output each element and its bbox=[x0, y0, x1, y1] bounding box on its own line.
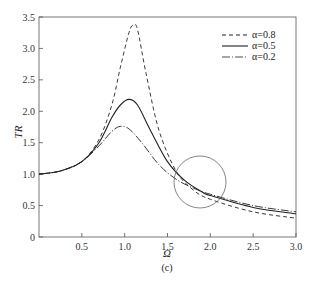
curve-dash-dot bbox=[39, 126, 296, 212]
svg-text:2.5: 2.5 bbox=[23, 74, 36, 85]
svg-text:3.0: 3.0 bbox=[290, 241, 303, 252]
svg-text:2.5: 2.5 bbox=[247, 241, 260, 252]
figure-caption: (c) bbox=[161, 262, 172, 274]
svg-text:0.5: 0.5 bbox=[23, 200, 36, 211]
svg-text:0.5: 0.5 bbox=[76, 241, 89, 252]
svg-text:2.0: 2.0 bbox=[23, 106, 36, 117]
legend: α=0.8 α=0.5 α=0.2 bbox=[222, 29, 275, 62]
svg-text:1.0: 1.0 bbox=[23, 169, 36, 180]
highlight-circle bbox=[174, 156, 226, 208]
x-axis-label: Ω bbox=[163, 247, 171, 259]
svg-text:3.5: 3.5 bbox=[23, 12, 36, 23]
svg-text:3.0: 3.0 bbox=[23, 43, 36, 54]
svg-text:2.0: 2.0 bbox=[204, 241, 217, 252]
legend-label: α=0.5 bbox=[252, 40, 275, 51]
svg-text:0: 0 bbox=[30, 232, 35, 243]
chart: 0.51.01.52.02.53.000.51.01.52.02.53.03.5… bbox=[0, 0, 314, 284]
legend-label: α=0.2 bbox=[252, 51, 275, 62]
curve-solid bbox=[39, 99, 296, 213]
svg-text:1.0: 1.0 bbox=[118, 241, 131, 252]
svg-text:1.5: 1.5 bbox=[23, 137, 36, 148]
legend-label: α=0.8 bbox=[252, 29, 275, 40]
y-axis-label: TR bbox=[12, 125, 24, 138]
